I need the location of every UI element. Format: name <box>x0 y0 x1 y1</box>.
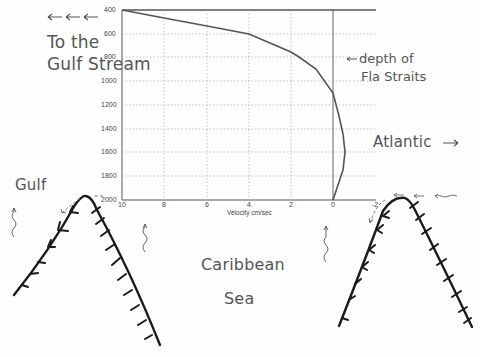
y-tick-1800: 1800 <box>101 172 117 179</box>
y-tick-2000: 2000 <box>101 196 117 203</box>
wavy-arrow-right-icon <box>435 194 457 198</box>
y-tick-1000: 1000 <box>101 77 117 84</box>
atlantic-arrow-icon <box>443 140 458 146</box>
y-tick-1400: 1400 <box>101 125 117 132</box>
label-sea: Sea <box>224 289 254 308</box>
x-tick-2: 2 <box>289 201 293 208</box>
y-tick-1600: 1600 <box>101 148 117 155</box>
x-tick-6: 6 <box>205 201 209 208</box>
wavy-arrow-gulf-icon <box>12 208 16 237</box>
x-axis-label: Velocity cm/sec <box>227 209 272 216</box>
x-tick-4: 4 <box>247 201 251 208</box>
left-arrows-icon <box>48 14 98 20</box>
diagram: 400 600 800 1000 1200 1400 1600 1800 200… <box>0 0 480 357</box>
velocity-plot <box>122 10 376 200</box>
label-fla-straits: Fla Straits <box>361 69 426 84</box>
label-gulf-stream: Gulf Stream <box>47 54 151 74</box>
y-tick-400: 400 <box>104 6 116 13</box>
left-ridge <box>14 196 160 345</box>
label-atlantic: Atlantic <box>373 133 432 151</box>
y-tick-600: 600 <box>104 30 116 37</box>
wavy-up-arrows <box>12 208 328 262</box>
x-tick-8: 8 <box>162 201 166 208</box>
depth-arrow-icon <box>347 57 357 61</box>
label-to-the: To the <box>47 32 99 52</box>
right-ridge <box>339 198 472 327</box>
label-depth-of: depth of <box>359 51 414 66</box>
y-tick-1200: 1200 <box>101 101 117 108</box>
label-gulf: Gulf <box>15 176 46 194</box>
label-caribbean: Caribbean <box>201 255 285 274</box>
wavy-arrow-mid-icon <box>324 226 328 262</box>
x-tick-10: 10 <box>118 201 126 208</box>
x-tick-0: 0 <box>331 201 335 208</box>
wavy-arrow-left-icon <box>143 224 147 252</box>
x-tick-neg2: -2 <box>372 201 378 208</box>
